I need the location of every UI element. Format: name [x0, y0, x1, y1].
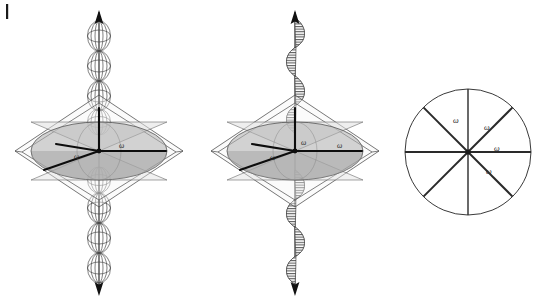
sector-center-dot — [465, 149, 470, 154]
omega-label: ω — [301, 138, 306, 147]
panel-right: ω ω ω ω — [405, 89, 531, 215]
omega-label: ω — [337, 141, 342, 150]
panel-middle: ω ω ω — [211, 10, 379, 296]
omega-label: ω — [119, 141, 124, 150]
origin-dot-middle — [293, 149, 298, 154]
omega-label: ω — [484, 123, 490, 132]
omega-label: ω — [486, 167, 492, 176]
figure-canvas: ω ω — [0, 0, 533, 303]
panel-left: ω ω — [15, 10, 183, 296]
figure-svg: ω ω — [0, 0, 533, 303]
omega-label: ω — [74, 152, 79, 161]
omega-label: ω — [494, 144, 500, 153]
omega-label: ω — [453, 116, 459, 125]
omega-label: ω — [270, 153, 275, 162]
origin-dot-left — [97, 149, 102, 154]
page-edge-tick — [6, 4, 8, 19]
